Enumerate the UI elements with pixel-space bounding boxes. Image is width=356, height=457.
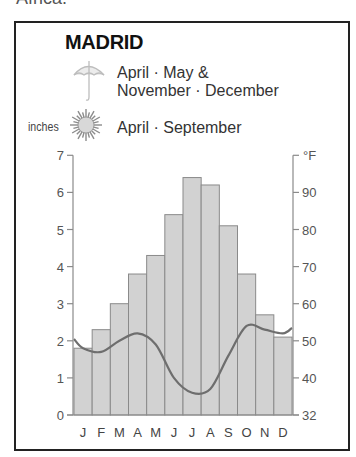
temperature-bars (74, 178, 292, 415)
left-axis-tick: 7 (57, 148, 64, 163)
left-axis-tick: 6 (57, 185, 64, 200)
right-axis-tick: 70 (302, 260, 316, 275)
temperature-bar (129, 274, 147, 415)
temperature-bar (183, 178, 201, 415)
right-axis-tick: 50 (302, 334, 316, 349)
left-axis-tick: 1 (57, 371, 64, 386)
umbrella-icon (74, 61, 104, 100)
right-axis-tick: 32 (302, 408, 316, 423)
month-label: N (260, 425, 269, 440)
left-axis-tick: 5 (57, 223, 64, 238)
month-label: J (80, 425, 87, 440)
sun-icon (70, 109, 102, 141)
right-axis-tick: 80 (302, 223, 316, 238)
month-label: A (133, 425, 142, 440)
temperature-bar (147, 255, 165, 415)
month-label: F (97, 425, 105, 440)
right-axis-unit-label: °F (303, 148, 316, 163)
temperature-bar (92, 330, 110, 415)
right-axis-tick: 60 (302, 297, 316, 312)
right-axis-tick: 40 (302, 371, 316, 386)
month-label: S (224, 425, 233, 440)
left-axis-tick: 2 (57, 334, 64, 349)
month-label: O (242, 425, 252, 440)
temperature-bar (274, 337, 292, 415)
month-label: M (150, 425, 161, 440)
temperature-bar (110, 304, 128, 415)
temperature-bar (219, 226, 237, 415)
month-label: M (114, 425, 125, 440)
left-axis-tick: 4 (57, 260, 64, 275)
right-axis-tick: 90 (302, 185, 316, 200)
left-axis-tick: 3 (57, 297, 64, 312)
temperature-bar (74, 348, 92, 415)
left-axis-tick: 0 (57, 408, 64, 423)
temperature-bar (238, 274, 256, 415)
climate-chart: 0123456732405060708090°FJFMAMJJASOND (0, 0, 356, 457)
month-label: D (278, 425, 287, 440)
month-label: J (189, 425, 196, 440)
month-label: J (171, 425, 178, 440)
month-label: A (206, 425, 215, 440)
